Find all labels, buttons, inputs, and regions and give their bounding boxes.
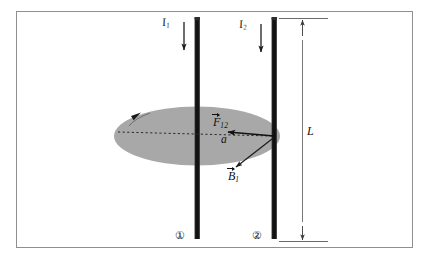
wire-2 — [272, 17, 277, 239]
figure-graphics — [0, 0, 430, 262]
vector-arrow-overbar-field — [227, 168, 234, 169]
wire-1-number: ① — [175, 230, 185, 241]
wire-2-number: ② — [252, 230, 262, 241]
current-label-1: I1 — [161, 16, 170, 30]
force-vector-label: F12 — [213, 116, 228, 130]
separation-label: a — [221, 134, 227, 146]
current-label-2: I2 — [238, 18, 247, 32]
vector-arrow-overbar-force — [212, 114, 219, 115]
wire-1 — [195, 17, 200, 239]
magnetic-field-label-sub: 1 — [235, 175, 239, 184]
length-dimension — [279, 19, 328, 242]
current-label-2-sub: 2 — [243, 23, 247, 30]
length-label: L — [307, 125, 314, 137]
magnetic-field-label: B1 — [228, 170, 239, 184]
figure-page: I1 I2 F12 a B1 L ① ② — [0, 0, 430, 262]
current-label-1-sub: 1 — [166, 21, 170, 28]
force-vector-label-sub: 12 — [220, 121, 228, 130]
